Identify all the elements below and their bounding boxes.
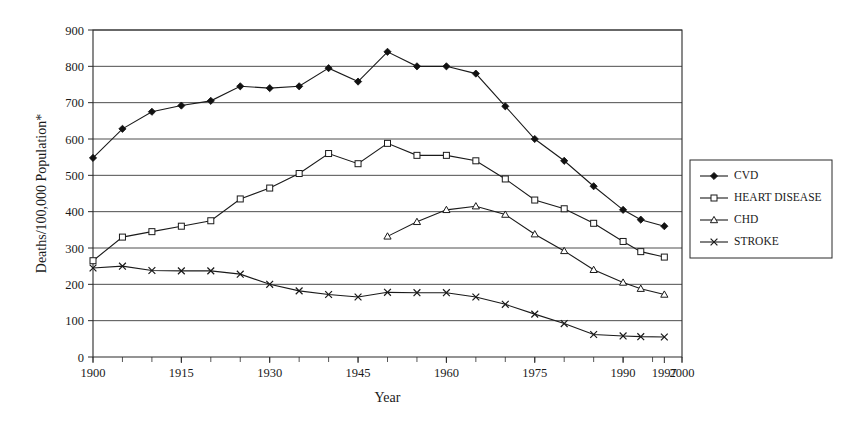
data-point-marker (267, 185, 273, 191)
data-point-marker (443, 152, 449, 158)
data-point-marker (385, 140, 391, 146)
series-chd (384, 203, 668, 298)
y-tick-label: 700 (65, 96, 84, 110)
data-point-marker (148, 108, 155, 115)
y-tick-label: 200 (65, 278, 84, 292)
legend-label: CVD (734, 169, 758, 181)
y-tick-label: 900 (65, 24, 84, 38)
x-tick-label: 1990 (611, 366, 636, 380)
y-tick-label: 600 (65, 133, 84, 147)
data-point-marker (561, 320, 568, 327)
x-tick-label: 1930 (257, 366, 282, 380)
data-point-marker (638, 249, 644, 255)
data-point-marker (266, 85, 273, 92)
data-point-marker (414, 152, 420, 158)
data-point-marker (237, 83, 244, 90)
data-point-marker (325, 65, 332, 72)
x-tick-label: 1960 (434, 366, 459, 380)
axis-ticks (88, 30, 682, 363)
line-chart: 0100200300400500600700800900 19001915193… (0, 0, 843, 434)
data-point-marker (207, 97, 214, 104)
data-point-marker (502, 301, 509, 308)
series-stroke (90, 263, 668, 341)
data-point-marker (296, 171, 302, 177)
data-point-marker (237, 196, 243, 202)
series-line (93, 266, 664, 337)
data-point-marker (355, 161, 361, 167)
data-point-marker (473, 158, 479, 164)
data-point-marker (296, 83, 303, 90)
data-point-marker (502, 176, 508, 182)
legend-label: CHD (734, 213, 758, 225)
chart-legend: CVDHEART DISEASECHDSTROKE (690, 160, 832, 258)
y-tick-label: 400 (65, 205, 84, 219)
data-point-marker (149, 229, 155, 235)
data-point-marker (590, 266, 597, 272)
data-point-marker (661, 254, 667, 260)
x-tick-label: 1915 (169, 366, 194, 380)
y-axis-title: Deaths/100,000 Population* (34, 114, 49, 273)
series-line (93, 143, 664, 260)
legend-label: HEART DISEASE (734, 191, 822, 203)
data-series (89, 48, 668, 340)
data-point-marker (620, 238, 626, 244)
data-point-marker (711, 195, 717, 201)
x-tick-label: 2000 (670, 366, 695, 380)
data-point-marker (591, 220, 597, 226)
data-point-marker (90, 258, 96, 264)
data-point-marker (532, 197, 538, 203)
x-tick-label: 1900 (81, 366, 106, 380)
y-tick-label: 100 (65, 314, 84, 328)
data-point-marker (531, 311, 538, 318)
y-axis-tick-labels: 0100200300400500600700800900 (65, 24, 84, 365)
x-tick-label: 1945 (346, 366, 371, 380)
data-point-marker (208, 218, 214, 224)
data-point-marker (661, 223, 668, 230)
data-point-marker (637, 216, 644, 223)
y-tick-label: 0 (78, 351, 84, 365)
y-tick-label: 300 (65, 242, 84, 256)
chart-figure: 0100200300400500600700800900 19001915193… (0, 0, 843, 434)
data-point-marker (119, 234, 125, 240)
axes (93, 30, 682, 357)
plot-frame (93, 30, 682, 357)
data-point-marker (384, 233, 391, 239)
y-tick-label: 500 (65, 169, 84, 183)
x-tick-label: 1975 (522, 366, 547, 380)
data-point-marker (178, 223, 184, 229)
data-point-marker (620, 279, 627, 285)
data-point-marker (472, 203, 479, 209)
data-point-marker (413, 63, 420, 70)
x-axis-tick-labels: 190019151930194519601975199019972000 (81, 366, 695, 380)
data-point-marker (531, 231, 538, 237)
series-heart-disease (90, 140, 667, 263)
y-tick-label: 800 (65, 60, 84, 74)
data-point-marker (443, 63, 450, 70)
data-point-marker (561, 206, 567, 212)
gridlines (93, 30, 682, 321)
legend-label: STROKE (734, 235, 779, 247)
x-axis-title: Year (375, 390, 401, 405)
data-point-marker (326, 151, 332, 157)
